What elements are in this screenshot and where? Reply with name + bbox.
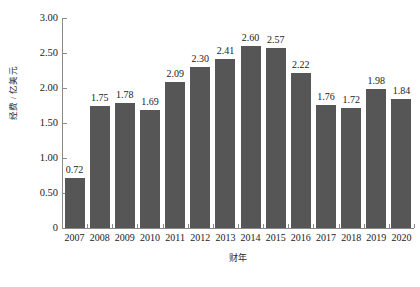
x-tick-label: 2010 — [140, 233, 160, 243]
bar — [215, 59, 235, 228]
bar-group: 1.98 — [366, 18, 386, 228]
x-tick-label: 2016 — [291, 233, 311, 243]
bar-value-label: 2.60 — [242, 33, 260, 43]
bar — [90, 106, 110, 229]
bar — [291, 73, 311, 228]
y-tick-label: 1.00 — [24, 153, 58, 164]
bar-group: 0.72 — [65, 18, 85, 228]
y-tick-label: 1.50 — [24, 118, 58, 129]
bar — [65, 178, 85, 228]
bar-value-label: 2.09 — [166, 69, 184, 79]
x-tick-label: 2007 — [65, 233, 85, 243]
bar-value-label: 2.22 — [292, 60, 310, 70]
plot-area: 0.721.751.781.692.092.302.412.602.572.22… — [62, 18, 414, 229]
bar — [190, 67, 210, 228]
bar-value-label: 2.57 — [267, 35, 285, 45]
bar-group: 1.75 — [90, 18, 110, 228]
x-tick-label: 2013 — [215, 233, 235, 243]
y-tick-label: 2.00 — [24, 83, 58, 94]
y-tick-label: 2.50 — [24, 48, 58, 59]
x-tick-label: 2017 — [316, 233, 336, 243]
y-tick-label: 3.00 — [24, 13, 58, 24]
x-tick-label: 2020 — [391, 233, 411, 243]
bar-chart: 经费 / 亿美元 00.501.001.502.002.503.00 0.721… — [0, 0, 420, 287]
bar — [165, 82, 185, 228]
y-axis-tick-labels: 00.501.001.502.002.503.00 — [20, 0, 58, 287]
bar-group: 2.41 — [215, 18, 235, 228]
x-tick-label: 2012 — [190, 233, 210, 243]
x-tick-label: 2018 — [341, 233, 361, 243]
bar — [316, 105, 336, 228]
bar-group: 2.30 — [190, 18, 210, 228]
bar-group: 2.22 — [291, 18, 311, 228]
bar-value-label: 1.78 — [116, 90, 134, 100]
bar — [391, 99, 411, 228]
x-tick-label: 2009 — [115, 233, 135, 243]
bar — [115, 103, 135, 228]
bar-group: 2.09 — [165, 18, 185, 228]
bar-value-label: 1.76 — [317, 92, 335, 102]
bar-value-label: 2.30 — [192, 54, 210, 64]
bar-value-label: 1.98 — [368, 76, 386, 86]
y-tick-label: 0.50 — [24, 188, 58, 199]
x-axis-tick-labels: 2007200820092010201120122013201420152016… — [62, 233, 414, 249]
bar — [341, 108, 361, 228]
x-tick-label: 2015 — [266, 233, 286, 243]
bar — [366, 89, 386, 228]
x-tick-mark — [414, 224, 415, 228]
bar — [140, 110, 160, 228]
bar-value-label: 1.84 — [393, 86, 411, 96]
bar-value-label: 1.72 — [342, 95, 360, 105]
bar — [266, 48, 286, 228]
bar-series: 0.721.751.781.692.092.302.412.602.572.22… — [62, 18, 414, 228]
bar-value-label: 1.69 — [141, 97, 159, 107]
y-axis-title: 经费 / 亿美元 — [6, 10, 18, 120]
bar-group: 1.76 — [316, 18, 336, 228]
bar-group: 2.60 — [241, 18, 261, 228]
bar-value-label: 1.75 — [91, 93, 109, 103]
bar-value-label: 0.72 — [66, 165, 84, 175]
y-tick-mark — [63, 228, 67, 229]
bar-value-label: 2.41 — [217, 46, 235, 56]
bar-group: 1.72 — [341, 18, 361, 228]
x-axis-title: 财年 — [62, 251, 414, 264]
bar-group: 1.84 — [391, 18, 411, 228]
x-tick-label: 2019 — [366, 233, 386, 243]
x-tick-label: 2011 — [165, 233, 185, 243]
x-tick-label: 2014 — [241, 233, 261, 243]
x-axis-line — [62, 228, 414, 229]
bar-group: 1.69 — [140, 18, 160, 228]
bar-group: 2.57 — [266, 18, 286, 228]
y-tick-label: 0 — [24, 223, 58, 234]
bar — [241, 46, 261, 228]
x-tick-label: 2008 — [90, 233, 110, 243]
bar-group: 1.78 — [115, 18, 135, 228]
